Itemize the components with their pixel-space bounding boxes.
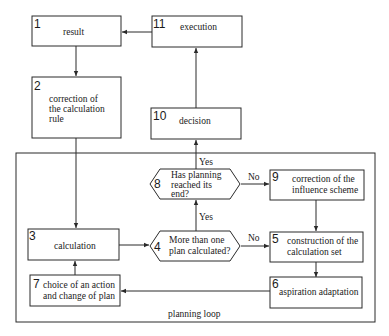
svg-text:end?: end? [171,189,189,199]
svg-text:influence scheme: influence scheme [292,185,358,195]
svg-text:aspiration adaptation: aspiration adaptation [279,287,359,297]
svg-text:calculation set: calculation set [287,247,342,257]
svg-text:6: 6 [272,277,279,291]
node-9-correction-influence-scheme: 9 correction of the influence scheme [270,170,364,200]
svg-text:11: 11 [153,17,166,31]
svg-text:calculation: calculation [54,241,96,251]
svg-text:construction of the: construction of the [287,236,358,246]
svg-text:4: 4 [154,240,161,254]
node-3-calculation: 3 calculation [28,229,119,260]
edge-label-yes-8-10: Yes [199,157,213,167]
svg-text:correction of: correction of [49,94,99,104]
node-5-construction-calculation-set: 5 construction of the calculation set [270,232,363,262]
svg-text:and change of plan: and change of plan [43,291,115,301]
svg-text:10: 10 [153,109,167,123]
node-7-choice-of-action: 7 choice of an action and change of plan [30,275,120,306]
svg-text:correction of the: correction of the [292,174,355,184]
node-2-correction-calculation-rule: 2 correction of the calculation rule [32,77,121,138]
edge-label-no-4-5: No [248,233,260,243]
node-6-aspiration-adaptation: 6 aspiration adaptation [270,277,362,308]
svg-text:Has planning: Has planning [171,170,222,180]
svg-text:1: 1 [34,17,41,31]
svg-text:choice of an action: choice of an action [43,280,115,290]
svg-text:7: 7 [33,277,40,291]
svg-text:decision: decision [179,116,211,126]
svg-text:More than one: More than one [169,235,224,245]
svg-text:5: 5 [272,232,279,246]
svg-text:9: 9 [272,170,279,184]
svg-text:2: 2 [34,79,41,93]
node-11-execution: 11 execution [152,16,242,47]
svg-text:8: 8 [154,177,161,191]
node-1-result: 1 result [32,16,121,46]
node-10-decision: 10 decision [151,108,241,139]
node-8-has-planning-reached-end: 8 Has planning reached its end? [150,169,240,199]
svg-text:3: 3 [29,229,36,243]
flowchart-canvas: planning loop Yes No Yes No 1 [0,0,389,336]
edge-label-no-8-9: No [248,172,260,182]
svg-text:result: result [63,27,84,37]
svg-text:plan calculated?: plan calculated? [169,246,230,256]
svg-text:execution: execution [180,22,217,32]
svg-text:the calculation: the calculation [49,104,105,114]
svg-text:rule: rule [49,114,64,124]
node-4-more-than-one-plan: 4 More than one plan calculated? [150,231,240,261]
edge-label-yes-4-8: Yes [199,212,213,222]
planning-loop-label: planning loop [168,309,221,319]
